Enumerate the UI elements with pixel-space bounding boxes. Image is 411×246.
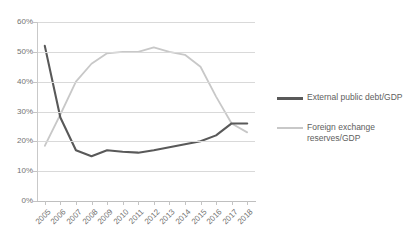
- legend-swatch-icon: [277, 97, 303, 100]
- x-axis-tick: [138, 201, 139, 205]
- x-axis-tick: [201, 201, 202, 205]
- chart-legend: External public debt/GDP Foreign exchang…: [277, 92, 409, 163]
- y-axis-tick: [33, 22, 37, 23]
- x-axis-tick: [185, 201, 186, 205]
- y-axis-tick: [33, 52, 37, 53]
- x-axis-tick: [76, 201, 77, 205]
- legend-swatch-icon: [277, 127, 303, 129]
- x-axis-tick: [92, 201, 93, 205]
- x-axis-tick: [60, 201, 61, 205]
- legend-item-foreign-exchange-reserves: Foreign exchange reserves/GDP: [277, 122, 409, 144]
- x-axis-tick: [247, 201, 248, 205]
- y-axis-tick: [33, 201, 37, 202]
- x-axis-tick: [232, 201, 233, 205]
- x-axis-tick: [123, 201, 124, 205]
- x-axis-tick: [107, 201, 108, 205]
- y-axis-tick: [33, 112, 37, 113]
- x-axis-tick: [154, 201, 155, 205]
- line-chart: 0%10%20%30%40%50%60% 2005200620072008200…: [0, 0, 411, 246]
- y-axis-tick: [33, 82, 37, 83]
- x-axis-tick: [216, 201, 217, 205]
- y-axis-tick: [33, 141, 37, 142]
- y-axis-tick: [33, 171, 37, 172]
- x-axis-tick: [169, 201, 170, 205]
- legend-label: Foreign exchange reserves/GDP: [307, 122, 407, 144]
- legend-label: External public debt/GDP: [307, 92, 402, 103]
- legend-item-external-public-debt: External public debt/GDP: [277, 92, 409, 103]
- x-axis-tick: [45, 201, 46, 205]
